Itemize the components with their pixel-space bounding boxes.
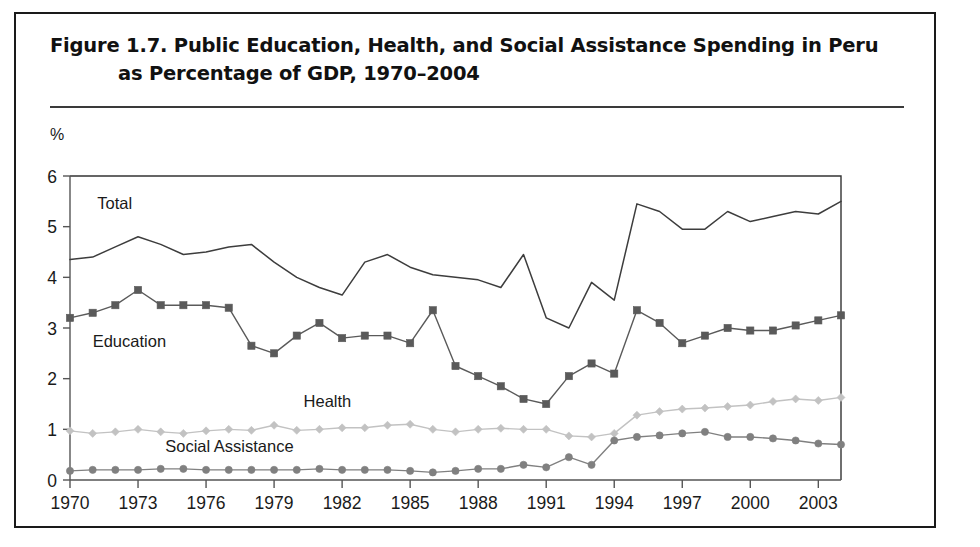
series-education	[66, 286, 844, 407]
data-point-marker	[112, 302, 119, 309]
y-tick-label: 0	[47, 471, 57, 491]
data-point-marker	[112, 466, 119, 473]
data-point-marker	[315, 425, 323, 433]
data-point-marker	[724, 403, 732, 411]
x-tick-label: 1979	[255, 493, 294, 513]
x-tick-label: 1976	[187, 493, 226, 513]
data-point-marker	[202, 466, 209, 473]
data-point-marker	[724, 433, 731, 440]
series-annotation-label: Social Assistance	[165, 437, 293, 455]
data-point-marker	[361, 332, 368, 339]
data-point-marker	[543, 464, 550, 471]
data-point-marker	[815, 440, 822, 447]
data-point-marker	[497, 383, 504, 390]
data-point-marker	[361, 466, 368, 473]
series-layer	[66, 201, 845, 476]
x-tick-label: 2003	[799, 493, 838, 513]
data-point-marker	[837, 441, 844, 448]
x-tick-label: 1982	[323, 493, 362, 513]
data-point-marker	[475, 465, 482, 472]
title-divider	[50, 106, 904, 108]
data-point-marker	[837, 393, 845, 401]
data-point-marker	[225, 304, 232, 311]
data-point-marker	[66, 427, 74, 435]
data-point-marker	[497, 465, 504, 472]
data-point-marker	[542, 425, 550, 433]
data-point-marker	[701, 404, 709, 412]
x-tick-label: 1985	[391, 493, 430, 513]
data-point-marker	[746, 401, 754, 409]
data-point-marker	[89, 429, 97, 437]
data-point-marker	[474, 425, 482, 433]
y-tick-label: 2	[47, 369, 57, 389]
data-point-marker	[293, 426, 301, 434]
data-point-marker	[339, 466, 346, 473]
data-point-marker	[361, 424, 369, 432]
data-point-marker	[270, 350, 277, 357]
data-point-marker	[429, 469, 436, 476]
data-point-marker	[134, 286, 141, 293]
data-point-marker	[157, 302, 164, 309]
data-point-marker	[588, 433, 596, 441]
data-point-marker	[157, 465, 164, 472]
series-annotation-label: Health	[304, 392, 352, 410]
x-axis: 1970197319761979198219851988199119941997…	[51, 480, 841, 513]
chart-area: 0123456 19701973197619791982198519881991…	[16, 118, 934, 526]
data-point-marker	[792, 437, 799, 444]
data-point-marker	[452, 467, 459, 474]
data-point-marker	[180, 302, 187, 309]
data-point-marker	[407, 467, 414, 474]
figure-title-line-2: as Percentage of GDP, 1970–2004	[50, 60, 906, 88]
data-point-marker	[66, 314, 73, 321]
data-point-marker	[248, 466, 255, 473]
data-point-marker	[111, 428, 119, 436]
data-point-marker	[633, 307, 640, 314]
data-point-marker	[270, 421, 278, 429]
data-point-marker	[679, 430, 686, 437]
y-axis-unit-label: %	[50, 126, 64, 143]
data-point-marker	[384, 332, 391, 339]
data-point-marker	[475, 373, 482, 380]
data-point-marker	[656, 319, 663, 326]
data-point-marker	[407, 340, 414, 347]
data-point-marker	[66, 467, 73, 474]
data-point-marker	[747, 433, 754, 440]
data-point-marker	[588, 360, 595, 367]
y-tick-label: 1	[47, 420, 57, 440]
data-point-marker	[248, 342, 255, 349]
data-point-marker	[406, 420, 414, 428]
x-tick-label: 1988	[459, 493, 498, 513]
data-point-marker	[134, 425, 142, 433]
data-point-marker	[724, 324, 731, 331]
data-point-marker	[89, 466, 96, 473]
data-point-marker	[769, 435, 776, 442]
data-point-marker	[520, 425, 528, 433]
data-point-marker	[316, 319, 323, 326]
x-tick-label: 1973	[119, 493, 158, 513]
data-point-marker	[316, 465, 323, 472]
line-chart: 0123456 19701973197619791982198519881991…	[16, 118, 934, 526]
data-point-marker	[520, 461, 527, 468]
y-axis: 0123456	[47, 167, 70, 491]
x-tick-label: 2000	[731, 493, 770, 513]
data-point-marker	[792, 322, 799, 329]
data-point-marker	[180, 465, 187, 472]
data-point-marker	[270, 466, 277, 473]
x-tick-label: 1970	[51, 493, 90, 513]
data-point-marker	[792, 395, 800, 403]
data-point-marker	[565, 454, 572, 461]
data-point-marker	[429, 307, 436, 314]
data-point-marker	[225, 466, 232, 473]
data-point-marker	[701, 428, 708, 435]
data-point-marker	[452, 428, 460, 436]
data-point-marker	[429, 425, 437, 433]
data-point-marker	[769, 327, 776, 334]
data-point-marker	[520, 395, 527, 402]
data-point-marker	[384, 466, 391, 473]
figure-frame: Figure 1.7. Public Education, Health, an…	[14, 12, 936, 528]
data-point-marker	[769, 397, 777, 405]
data-point-marker	[611, 370, 618, 377]
data-point-marker	[656, 432, 663, 439]
data-point-marker	[565, 432, 573, 440]
data-point-marker	[565, 373, 572, 380]
